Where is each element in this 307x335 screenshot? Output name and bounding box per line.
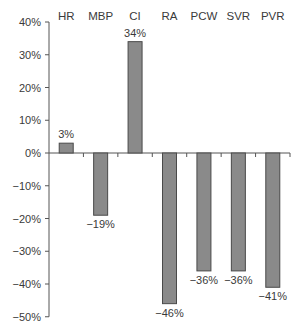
y-tick-label: 10%: [19, 114, 41, 126]
value-label: 3%: [58, 128, 74, 140]
y-tick-label: 0%: [25, 147, 41, 159]
category-label: RA: [162, 10, 178, 22]
value-label: 34%: [124, 27, 146, 39]
y-tick-label: 30%: [19, 49, 41, 61]
y-tick-label: −50%: [13, 311, 42, 323]
category-labels: HRMBPCIRAPCWSVRPVR: [58, 10, 285, 22]
y-tick-label: −30%: [13, 245, 42, 257]
y-tick-label: −10%: [13, 180, 42, 192]
bar-hr: [59, 143, 73, 153]
category-label: PVR: [261, 10, 285, 22]
bar-mbp: [94, 153, 108, 215]
category-label: PCW: [191, 10, 218, 22]
category-label: SVR: [227, 10, 251, 22]
bar-pcw: [197, 153, 211, 271]
value-label: −19%: [86, 218, 115, 230]
bars: [59, 42, 280, 304]
y-tick-label: −20%: [13, 213, 42, 225]
category-label: HR: [58, 10, 75, 22]
value-label: −36%: [224, 274, 253, 286]
y-tick-label: 20%: [19, 82, 41, 94]
y-tick-label: 40%: [19, 16, 41, 28]
category-label: CI: [129, 10, 141, 22]
y-tick-label: −40%: [13, 278, 42, 290]
bar-ci: [128, 42, 142, 153]
value-label: −46%: [155, 307, 184, 319]
bar-pvr: [266, 153, 280, 287]
value-label: −36%: [190, 274, 219, 286]
bar-chart: 40%30%20%10%0%−10%−20%−30%−40%−50% HRMBP…: [0, 0, 307, 335]
category-label: MBP: [88, 10, 113, 22]
value-label: −41%: [259, 290, 288, 302]
bar-svr: [231, 153, 245, 271]
y-axis: 40%30%20%10%0%−10%−20%−30%−40%−50%: [13, 16, 49, 323]
bar-ra: [163, 153, 177, 304]
